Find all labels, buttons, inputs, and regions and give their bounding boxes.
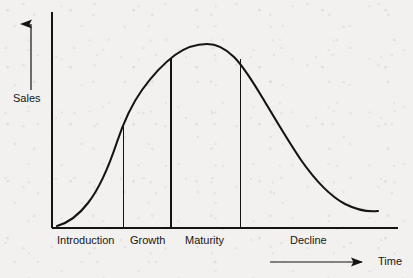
phase-label-maturity: Maturity: [185, 234, 224, 246]
y-axis-label: Sales: [13, 92, 41, 104]
sales-curve: [57, 44, 378, 226]
product-life-cycle-figure: Sales Time Introduction Growth Maturity …: [0, 0, 413, 278]
x-axis-label: Time: [378, 255, 402, 267]
phase-label-decline: Decline: [290, 234, 327, 246]
phase-label-introduction: Introduction: [57, 234, 114, 246]
phase-label-growth: Growth: [130, 234, 165, 246]
